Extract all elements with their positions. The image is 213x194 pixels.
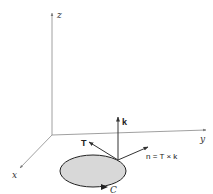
y-axis [52, 130, 206, 135]
y-axis-label: y [199, 134, 206, 144]
z-axis-label: z [56, 10, 62, 20]
diagram-canvas: z y x C k T n = T × k [0, 0, 213, 194]
curve-label: C [110, 185, 117, 194]
curve-ellipse [60, 155, 126, 187]
curve-c: C [60, 155, 126, 194]
x-axis-label: x [12, 170, 17, 180]
normal-vector [118, 147, 148, 160]
x-axis [20, 135, 52, 168]
k-vector-label: k [122, 117, 128, 127]
vectors: k T n = T × k [81, 117, 178, 161]
normal-vector-label: n = T × k [146, 152, 178, 161]
tangent-vector-label: T [81, 138, 87, 148]
